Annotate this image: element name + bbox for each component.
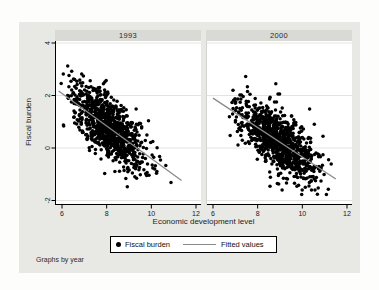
dot-icon — [116, 242, 121, 247]
scatter-panel-2000: 681012 — [206, 41, 352, 205]
facet-strip-2000: 2000 — [206, 30, 352, 41]
facet-strip-1993: 1993 — [55, 30, 201, 41]
svg-text:6: 6 — [60, 210, 64, 217]
svg-text:10: 10 — [298, 210, 306, 217]
svg-text:4: 4 — [44, 41, 51, 45]
svg-text:-2: -2 — [44, 197, 51, 203]
svg-text:6: 6 — [211, 210, 215, 217]
graphs-by-year-note: Graphs by year — [36, 256, 84, 263]
svg-text:0: 0 — [44, 146, 51, 150]
svg-text:2: 2 — [44, 93, 51, 97]
svg-text:10: 10 — [147, 210, 155, 217]
svg-text:8: 8 — [105, 210, 109, 217]
scatter-panel-1993: 681012-2024 — [55, 41, 201, 205]
stata-faceted-scatter-figure: 1993 2000 681012-2024 681012 Fiscal burd… — [0, 0, 379, 290]
svg-text:8: 8 — [256, 210, 260, 217]
y-axis-title: Fiscal burden — [24, 62, 36, 182]
svg-text:12: 12 — [343, 210, 351, 217]
line-icon — [183, 244, 216, 245]
legend-fit-label: Fitted values — [221, 240, 264, 249]
legend-scatter-label: Fiscal burden — [125, 240, 170, 249]
svg-text:12: 12 — [192, 210, 200, 217]
legend: Fiscal burden Fitted values — [110, 236, 277, 253]
x-axis-title: Economic development level — [55, 217, 352, 226]
